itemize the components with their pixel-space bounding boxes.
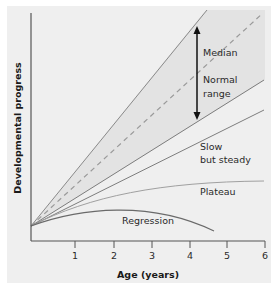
x-tick-label-1: 1	[72, 250, 78, 261]
plateau-label: Plateau	[200, 186, 236, 197]
median-label: Median	[203, 47, 238, 58]
y-axis-title: Developmental progress	[12, 62, 23, 194]
slow-steady-label-line2: but steady	[200, 154, 251, 165]
regression-label: Regression	[122, 215, 174, 226]
x-tick-label-3: 3	[149, 250, 155, 261]
slow-steady-label-line1: Slow	[200, 141, 222, 152]
x-tick-label-6: 6	[262, 250, 268, 261]
x-tick-label-5: 5	[224, 250, 230, 261]
normal-range-label-line2: range	[203, 88, 231, 99]
normal-range-label-line1: Normal	[203, 74, 237, 85]
x-tick-label-2: 2	[111, 250, 117, 261]
developmental-trajectories-chart: 1 2 3 4 5 6 Age (years) Developmental pr…	[0, 0, 277, 297]
x-axis-title: Age (years)	[117, 269, 179, 280]
x-tick-label-4: 4	[187, 250, 193, 261]
